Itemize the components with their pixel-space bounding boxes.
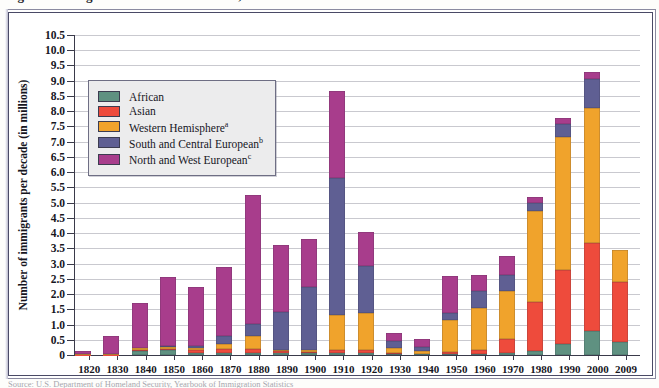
bar-segment-north-and-west-european[interactable]	[442, 276, 458, 313]
bar-stack[interactable]	[273, 245, 289, 355]
x-axis-tick	[485, 355, 486, 360]
bar-segment-african[interactable]	[584, 331, 600, 355]
bar-stack[interactable]	[499, 256, 515, 355]
y-axis-tick-label: 0.5	[51, 334, 65, 346]
bar-segment-south-and-central-european[interactable]	[555, 124, 571, 136]
bar-segment-north-and-west-european[interactable]	[160, 277, 176, 345]
bar-segment-african[interactable]	[555, 344, 571, 355]
bar-segment-african[interactable]	[442, 354, 458, 355]
bar-segment-asian[interactable]	[612, 282, 628, 343]
bar-stack[interactable]	[358, 232, 374, 355]
bar-segment-south-and-central-european[interactable]	[273, 312, 289, 350]
bar-stack[interactable]	[414, 339, 430, 355]
bar-segment-african[interactable]	[471, 354, 487, 355]
bar-segment-south-and-central-european[interactable]	[216, 336, 232, 344]
bar-segment-western-hemisphere[interactable]	[499, 291, 515, 339]
bar-stack[interactable]	[442, 276, 458, 355]
bar-segment-north-and-west-european[interactable]	[499, 256, 515, 275]
legend-item-african[interactable]: African	[98, 91, 263, 103]
legend-item-asian[interactable]: Asian	[98, 105, 263, 117]
bar-segment-south-and-central-european[interactable]	[245, 324, 261, 336]
bar-segment-african[interactable]	[358, 353, 374, 355]
bar-segment-western-hemisphere[interactable]	[612, 250, 628, 281]
bar-stack[interactable]	[386, 333, 402, 355]
bar-segment-north-and-west-european[interactable]	[188, 287, 204, 346]
bar-segment-south-and-central-european[interactable]	[329, 178, 345, 315]
bar-segment-african[interactable]	[329, 353, 345, 355]
bar-segment-western-hemisphere[interactable]	[555, 137, 571, 270]
bar-segment-south-and-central-european[interactable]	[471, 291, 487, 308]
bar-segment-western-hemisphere[interactable]	[527, 211, 543, 302]
legend-label: North and West Europeanc	[129, 152, 251, 166]
bar-segment-north-and-west-european[interactable]	[471, 275, 487, 291]
bar-segment-north-and-west-european[interactable]	[216, 267, 232, 337]
bar-stack[interactable]	[75, 351, 91, 355]
bar-stack[interactable]	[471, 275, 487, 355]
bar-stack[interactable]	[301, 239, 317, 355]
bar-segment-north-and-west-european[interactable]	[555, 118, 571, 125]
bar-stack[interactable]	[188, 287, 204, 355]
bar-segment-north-and-west-european[interactable]	[132, 303, 148, 348]
legend-swatch	[98, 121, 120, 132]
bar-stack[interactable]	[245, 195, 261, 355]
bar-segment-western-hemisphere[interactable]	[471, 308, 487, 349]
legend-swatch	[98, 91, 120, 102]
bar-segment-african[interactable]	[301, 353, 317, 355]
bar-segment-african[interactable]	[216, 353, 232, 355]
y-axis-tick-label: 0	[59, 349, 65, 361]
bar-segment-asian[interactable]	[584, 243, 600, 330]
bar-segment-south-and-central-european[interactable]	[301, 287, 317, 350]
bar-segment-south-and-central-european[interactable]	[527, 203, 543, 212]
bar-segment-african[interactable]	[273, 353, 289, 355]
bar-segment-western-hemisphere[interactable]	[329, 315, 345, 350]
bar-segment-asian[interactable]	[499, 339, 515, 352]
bar-stack[interactable]	[555, 118, 571, 355]
bar-stack[interactable]	[584, 72, 600, 355]
bar-segment-north-and-west-european[interactable]	[103, 336, 119, 354]
bar-stack[interactable]	[527, 197, 543, 355]
bar-segment-western-hemisphere[interactable]	[358, 313, 374, 350]
bar-stack[interactable]	[216, 267, 232, 355]
bar-segment-western-hemisphere[interactable]	[442, 320, 458, 352]
bar-segment-north-and-west-european[interactable]	[245, 195, 261, 324]
y-axis-tick-label: 2.5	[51, 273, 65, 285]
x-axis-tick-label: 1840	[135, 363, 157, 375]
bar-segment-african[interactable]	[414, 354, 430, 355]
bar-segment-western-hemisphere[interactable]	[245, 336, 261, 349]
bar-segment-african[interactable]	[245, 353, 261, 355]
bar-segment-african[interactable]	[132, 351, 148, 355]
bar-segment-north-and-west-european[interactable]	[329, 91, 345, 179]
y-axis-tick	[67, 355, 74, 356]
y-axis-tick-label: 2.0	[51, 288, 65, 300]
legend-item-north-and-west-european[interactable]: North and West Europeanc	[98, 152, 263, 166]
bar-segment-asian[interactable]	[527, 302, 543, 350]
bar-segment-north-and-west-european[interactable]	[301, 239, 317, 287]
bar-stack[interactable]	[103, 336, 119, 355]
x-axis-tick-label: 1860	[191, 363, 213, 375]
y-axis-tick-label: 9.0	[51, 75, 65, 87]
bar-segment-african[interactable]	[188, 353, 204, 355]
bar-stack[interactable]	[132, 303, 148, 355]
bar-segment-south-and-central-european[interactable]	[499, 275, 515, 291]
bar-segment-african[interactable]	[499, 353, 515, 355]
bar-stack[interactable]	[160, 277, 176, 355]
bar-segment-north-and-west-european[interactable]	[273, 245, 289, 312]
bar-segment-south-and-central-european[interactable]	[584, 79, 600, 109]
bar-segment-north-and-west-european[interactable]	[358, 232, 374, 266]
bar-segment-asian[interactable]	[555, 270, 571, 344]
x-axis-tick	[89, 355, 90, 360]
bar-segment-north-and-west-european[interactable]	[414, 339, 430, 348]
bar-segment-north-and-west-european[interactable]	[386, 333, 402, 341]
bar-stack[interactable]	[612, 250, 628, 355]
legend-item-south-and-central-european[interactable]: South and Central Europeanb	[98, 136, 263, 150]
bar-segment-african[interactable]	[160, 350, 176, 355]
bar-segment-south-and-central-european[interactable]	[358, 266, 374, 313]
bar-segment-african[interactable]	[386, 354, 402, 355]
bar-stack[interactable]	[329, 90, 345, 355]
bar-segment-western-hemisphere[interactable]	[584, 108, 600, 243]
bar-segment-south-and-central-european[interactable]	[386, 341, 402, 348]
bar-segment-african[interactable]	[527, 351, 543, 355]
bar-segment-african[interactable]	[612, 342, 628, 355]
bar-segment-south-and-central-european[interactable]	[442, 313, 458, 320]
legend-item-western-hemisphere[interactable]: Western Hemispherea	[98, 120, 263, 134]
